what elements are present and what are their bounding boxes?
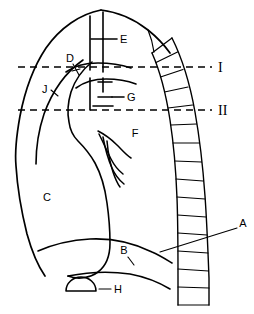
vertebra-divider (178, 215, 207, 217)
label-f: F (132, 127, 139, 139)
mediastinum-heart-border-icon (68, 62, 110, 278)
vertebra-divider (176, 179, 203, 181)
diagram-canvas: I II E G D J C F B A H (0, 0, 254, 314)
level-ii-label: II (218, 103, 228, 118)
b-leader-line (128, 257, 134, 265)
label-c: C (43, 191, 51, 203)
diaphragm-curve-icon (38, 239, 172, 263)
pulmonary-vessels-icon (98, 131, 131, 158)
label-j: J (42, 83, 48, 95)
label-g: G (127, 91, 136, 103)
vertebra-divider (156, 52, 178, 63)
label-a: A (239, 217, 247, 229)
a-leader-line (160, 228, 237, 252)
level-i-label: I (218, 60, 223, 75)
vertebral-column-icon (152, 53, 178, 305)
lung-outline-icon (16, 10, 101, 276)
chest-anatomy-diagram: I II E G D J C F B A H (0, 0, 254, 314)
label-e: E (120, 33, 127, 45)
vertebra-divider (171, 124, 197, 125)
aortic-arch-icon (66, 63, 131, 72)
vertebra-divider (177, 197, 205, 199)
inner-chest-wall-icon (36, 60, 83, 164)
vertebra-divider (168, 105, 193, 108)
gastric-bubble-icon (66, 277, 96, 291)
vertebra-divider (165, 87, 189, 92)
vertebra-divider (178, 269, 209, 271)
vertebra-divider (161, 70, 184, 78)
pulmonary-vessel-branch-2-icon (103, 137, 124, 184)
vertebra-divider (178, 287, 209, 288)
aortic-arch-inner-icon (76, 79, 136, 88)
vertebra-divider (178, 233, 207, 235)
label-b: B (120, 244, 127, 256)
vertebra-divider (175, 161, 202, 162)
label-h: H (114, 283, 122, 295)
vertebra-divider (178, 251, 208, 253)
label-d: D (66, 52, 74, 64)
